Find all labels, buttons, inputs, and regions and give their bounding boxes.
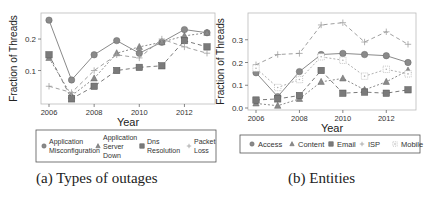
y-axis-label: Fraction of Threads (8, 15, 19, 102)
square-marker-icon (296, 92, 302, 98)
circle-marker-icon (250, 142, 254, 146)
square-marker-icon (140, 144, 144, 148)
square-marker-icon (340, 90, 346, 96)
x-tick-label: 2012 (378, 114, 395, 123)
circle-marker-icon (91, 52, 97, 58)
square-marker-icon (46, 52, 52, 58)
square-marker-icon (91, 83, 97, 89)
legend-label: Access (258, 140, 282, 149)
y-tick-label: 0.1 (232, 81, 244, 90)
x-tick-label: 2006 (41, 108, 58, 117)
x-axis-label: Year (321, 122, 344, 134)
y-tick-label: 0.2 (25, 35, 37, 44)
legend-label: Misconfiguration (49, 147, 100, 155)
x-tick-label: 2012 (176, 108, 193, 117)
y-tick-label: 0.2 (232, 59, 244, 68)
circle-marker-icon (68, 77, 74, 83)
square-marker-icon (329, 142, 333, 146)
circle-marker-icon (405, 59, 411, 65)
chart-a: 0.10.22006200820102012YearFraction of Th… (8, 13, 216, 162)
legend-label: Mobile (401, 140, 423, 149)
square-marker-icon (275, 96, 281, 102)
circle-marker-icon (340, 50, 346, 56)
legend-label: Down (103, 152, 121, 159)
plot-area (41, 13, 215, 104)
square-marker-icon (114, 67, 120, 73)
legend-b: AccessContentEmailISPMobile (240, 135, 423, 153)
legend-label: Loss (194, 147, 209, 154)
legend-label: ISP (368, 140, 380, 149)
legend-a: ApplicationMisconfigurationApplicationSe… (36, 130, 216, 162)
legend-label: Application (103, 134, 137, 142)
legend-label: Application (49, 138, 83, 146)
y-tick-label: 0.1 (25, 67, 37, 76)
square-marker-icon (136, 64, 142, 70)
square-marker-icon (361, 89, 367, 95)
x-tick-label: 2008 (86, 108, 103, 117)
circle-marker-icon (296, 68, 302, 74)
caption-a: (a) Types of outages (36, 170, 158, 187)
x-tick-label: 2006 (248, 114, 265, 123)
circle-marker-icon (383, 52, 389, 58)
caption-b: (b) Entities (288, 170, 355, 187)
y-axis-label: Fraction of Threads (215, 18, 226, 105)
circle-marker-icon (361, 51, 367, 57)
circle-marker-icon (46, 17, 52, 23)
legend-label: Packet (194, 138, 215, 145)
legend-label: Resolution (147, 147, 180, 154)
square-marker-icon (318, 67, 324, 73)
legend-label: Dns (147, 138, 160, 145)
square-marker-icon (181, 37, 187, 43)
square-marker-icon (204, 44, 210, 50)
y-tick-label: 0.0 (232, 104, 244, 113)
square-marker-icon (253, 97, 259, 103)
x-axis-label: Year (117, 116, 140, 128)
plot-area (248, 13, 416, 110)
circle-marker-icon (114, 37, 120, 43)
square-marker-icon (68, 96, 74, 102)
legend-label: Server (103, 143, 124, 150)
square-marker-icon (405, 87, 411, 93)
figure-canvas: 0.10.22006200820102012YearFraction of Th… (0, 0, 436, 198)
legend-label: Email (337, 140, 356, 149)
legend-label: Content (298, 140, 325, 149)
square-marker-icon (383, 90, 389, 96)
square-marker-icon (159, 63, 165, 69)
chart-b: 0.00.10.20.32006200820102012YearFraction… (215, 13, 423, 153)
y-tick-label: 0.3 (232, 36, 244, 45)
x-tick-label: 2008 (291, 114, 308, 123)
circle-marker-icon (42, 144, 46, 148)
